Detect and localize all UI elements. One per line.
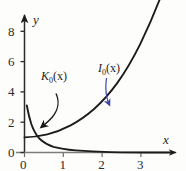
- y-axis-label: y: [33, 13, 39, 26]
- curve-label-k0-argument: (x): [53, 69, 67, 83]
- x-tick-label-1: 1: [60, 158, 67, 171]
- curve-label-k0: K0(x): [41, 70, 67, 85]
- y-tick-label-0: 0: [8, 146, 15, 159]
- y-tick-label-8: 8: [8, 25, 15, 38]
- y-tick-label-6: 6: [8, 55, 15, 68]
- y-tick-label-2: 2: [8, 116, 15, 129]
- x-axis-label: x: [163, 133, 169, 146]
- curve-k0: [27, 106, 172, 153]
- k0-annotation-arrow: [41, 94, 58, 128]
- y-tick-label-4: 4: [8, 85, 15, 98]
- bessel-function-chart: 0 2 4 6 8 0 1 2 3 y x K0(x) I0(x): [0, 0, 186, 171]
- i0-annotation-arrow: [106, 78, 110, 105]
- curve-label-i0: I0(x): [98, 62, 120, 77]
- x-tick-label-3: 3: [137, 158, 144, 171]
- curve-label-k0-base: K: [41, 69, 49, 83]
- plot-canvas: [0, 0, 186, 171]
- x-tick-label-0: 0: [20, 158, 27, 171]
- curve-label-i0-argument: (x): [106, 61, 120, 75]
- x-tick-label-2: 2: [98, 158, 105, 171]
